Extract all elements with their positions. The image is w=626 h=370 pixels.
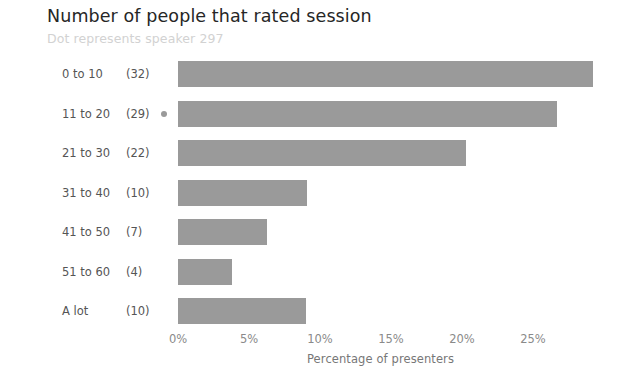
x-tick-label: 0% (169, 332, 187, 346)
bar-row: 21 to 30(22) (0, 140, 626, 166)
x-tick-label: 5% (240, 332, 258, 346)
speaker-marker-dot (161, 111, 167, 117)
bar-row: 51 to 60(4) (0, 259, 626, 285)
category-label: 41 to 50 (62, 219, 110, 245)
plot-area: 0 to 10(32)11 to 20(29)21 to 30(22)31 to… (0, 0, 626, 370)
bar[interactable] (178, 101, 557, 127)
x-tick-label: 20% (449, 332, 475, 346)
category-count: (29) (126, 101, 150, 127)
bar[interactable] (178, 140, 466, 166)
bar[interactable] (178, 61, 593, 87)
x-tick-label: 25% (520, 332, 546, 346)
bar[interactable] (178, 219, 267, 245)
bar-row: 31 to 40(10) (0, 180, 626, 206)
category-count: (10) (126, 180, 150, 206)
bar[interactable] (178, 180, 307, 206)
bar[interactable] (178, 259, 232, 285)
category-count: (4) (126, 259, 142, 285)
x-axis-label-text: Percentage of presenters (307, 352, 454, 366)
category-label: 0 to 10 (62, 61, 103, 87)
category-count: (32) (126, 61, 150, 87)
bar-row: 11 to 20(29) (0, 101, 626, 127)
bar-row: A lot(10) (0, 298, 626, 324)
x-axis-label: Percentage of presenters (0, 352, 626, 366)
category-label: 31 to 40 (62, 180, 110, 206)
bar-row: 41 to 50(7) (0, 219, 626, 245)
x-tick-label: 15% (378, 332, 404, 346)
chart-container: Number of people that rated session Dot … (0, 0, 626, 370)
category-label: 51 to 60 (62, 259, 110, 285)
bar-row: 0 to 10(32) (0, 61, 626, 87)
category-count: (7) (126, 219, 142, 245)
category-count: (22) (126, 140, 150, 166)
x-tick-label: 10% (307, 332, 333, 346)
category-label: 21 to 30 (62, 140, 110, 166)
x-axis: 0%5%10%15%20%25% (0, 332, 626, 350)
bar[interactable] (178, 298, 306, 324)
category-label: 11 to 20 (62, 101, 110, 127)
category-count: (10) (126, 298, 150, 324)
category-label: A lot (62, 298, 88, 324)
